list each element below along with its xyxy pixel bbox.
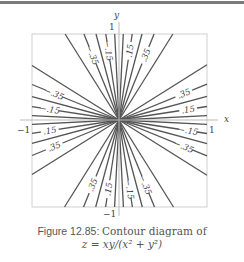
contour-label: .15 (42, 125, 57, 137)
contour-label: −.35 (137, 173, 154, 196)
contour-line (84, 120, 120, 207)
contour-label: −.15 (123, 178, 136, 200)
x-axis-label: x (224, 114, 229, 124)
y-tick-top: 1 (109, 22, 115, 32)
caption-formula: z = xy/(x² + y²) (0, 238, 244, 251)
contour-label: −.15 (39, 103, 61, 116)
contour-label: −.15 (177, 124, 199, 137)
x-tick-left: −1 (17, 125, 30, 135)
contour-label: −.35 (84, 44, 101, 67)
y-tick-bottom: −1 (103, 209, 116, 219)
contour-plot: .15.35.35.15−.15−.35−.35−.15.35.15.15.35… (0, 0, 244, 262)
x-tick-right: 1 (209, 125, 215, 135)
figure-caption: Figure 12.85: Contour diagram of (0, 225, 244, 238)
contour-label: .15 (181, 103, 196, 115)
contour-label: .15 (124, 43, 136, 58)
y-axis-label: y (113, 10, 120, 20)
caption-label: Figure 12.85: (37, 225, 99, 237)
contour-label: −.15 (102, 40, 115, 62)
contour-line (119, 84, 207, 120)
contour-label: .15 (102, 182, 114, 197)
caption-text: Contour diagram of (102, 225, 207, 237)
contour-label: −.35 (172, 138, 195, 155)
contour-line (119, 120, 207, 156)
contour-label: −.35 (43, 85, 66, 102)
